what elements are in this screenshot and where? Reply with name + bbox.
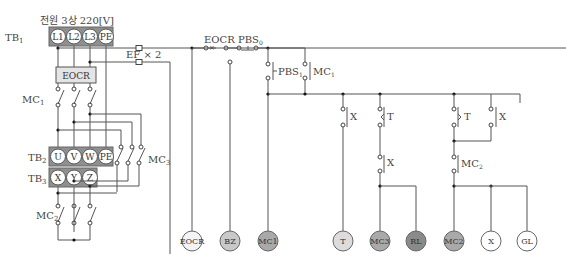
circuit-diagram: 전원 3상 220[V] TB1 L1 L2 L3 PE EF × 2 EOCR… (0, 0, 566, 254)
svg-text:EOCR: EOCR (180, 237, 206, 246)
svg-text:W: W (85, 152, 95, 162)
pbs0-label: PBS0 (238, 34, 263, 46)
load-timer: T (333, 231, 353, 251)
load-green-lamp: GL (517, 231, 537, 251)
load-mc3: MC3 (370, 231, 390, 251)
svg-text:X: X (488, 237, 494, 246)
x-contact-3-label: X (499, 111, 507, 122)
svg-text:BZ: BZ (224, 237, 236, 246)
load-bz: BZ (220, 231, 240, 251)
svg-text:U: U (54, 152, 62, 162)
svg-text:EOCR: EOCR (62, 71, 90, 81)
mc2-main-contacts (56, 204, 96, 225)
svg-text:MC3: MC3 (370, 237, 389, 246)
pbs1-label: PBS1 (278, 66, 303, 78)
svg-text:GL: GL (521, 237, 533, 246)
svg-text:L1: L1 (52, 32, 64, 42)
svg-text:TB3: TB3 (28, 173, 47, 186)
svg-text:X: X (55, 173, 62, 183)
mc1-main-contacts (56, 83, 96, 107)
svg-text:TB2: TB2 (28, 152, 47, 165)
svg-text:PE: PE (100, 152, 113, 162)
power-supply-label: 전원 3상 220[V] (40, 15, 114, 26)
mc3-main-contacts (115, 145, 145, 165)
tb1-label: TB1 (5, 32, 24, 45)
svg-text:PE: PE (100, 32, 113, 42)
x-contact-2-label: X (387, 157, 395, 168)
mc3-label: MC3 (148, 154, 170, 167)
svg-text:V: V (70, 152, 78, 162)
t-contact-1-label: T (387, 111, 394, 122)
svg-text:L2: L2 (68, 32, 80, 42)
terminal-block-tb3: TB3 X Y Z (28, 168, 98, 187)
x-contact-1-label: X (350, 111, 358, 122)
fuse-2 (136, 60, 142, 65)
mc2-label: MC2 (36, 210, 58, 223)
fuse-label: EF × 2 (126, 49, 161, 60)
svg-text:RL: RL (410, 237, 422, 246)
load-mc1: MC1 (258, 231, 278, 251)
eocr-contact-label: EOCR (204, 34, 235, 45)
svg-text:×: × (209, 44, 215, 52)
load-relay-x: X (481, 231, 501, 251)
svg-text:MC2: MC2 (444, 237, 463, 246)
svg-text:T: T (340, 237, 346, 246)
terminal-block-tb2: TB2 U V W PE (28, 147, 114, 166)
mc1-label: MC1 (22, 94, 44, 107)
load-mc2: MC2 (444, 231, 464, 251)
svg-text:MC1: MC1 (258, 237, 277, 246)
mc1-aux-label: MC1 (313, 66, 335, 78)
load-red-lamp: RL (406, 231, 426, 251)
svg-text:L3: L3 (84, 32, 96, 42)
terminal-block-tb1: TB1 L1 L2 L3 PE (5, 27, 114, 46)
t-contact-2-label: T (464, 111, 471, 122)
mc2-aux-label: MC2 (461, 158, 483, 170)
load-eocr: EOCR (180, 231, 206, 251)
